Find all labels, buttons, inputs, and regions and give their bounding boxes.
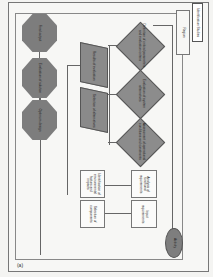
input-box-2: Analysis of functional requirements [131,170,157,198]
connector-line [67,65,68,195]
connector-line [39,52,40,58]
connector-line [105,213,131,214]
decision-diamond-2: Evaluation of system alternatives [118,70,165,117]
decision-diamond-1: Assessment of operational conditions and… [118,118,165,165]
process-box-1: Selection of components [80,200,105,228]
panel-label: (a) [17,262,23,268]
caption-box: Identification Studies [192,3,203,42]
terminal-octagon-1: Optimum design [22,100,57,140]
decision-label: Assessment of operational conditions and… [118,118,165,165]
data-label: Selection of alternatives [79,91,107,131]
data-node-1: Selection of alternatives [80,87,108,133]
process-box-2: Identification of environmental factors … [80,170,105,198]
input-box-1: Input requirements [131,200,157,228]
start-node: Activity [165,228,183,258]
region-panel: Region [176,10,190,55]
terminal-octagon-3: Final output [22,14,57,52]
decision-label: Definition of critical parameters and ev… [118,22,165,69]
decision-diamond-3: Definition of critical parameters and ev… [118,22,165,69]
terminal-octagon-2: Evaluation of solution [22,58,57,98]
data-label: Results of evaluation [79,46,107,86]
connector-line [105,185,131,186]
diagram-canvas: (a) Identification Studies Region Activi… [0,0,213,277]
connector-line [172,25,173,242]
decision-label: Evaluation of system alternatives [118,70,165,117]
data-node-2: Results of evaluation [80,42,108,88]
connector-line [109,45,110,145]
